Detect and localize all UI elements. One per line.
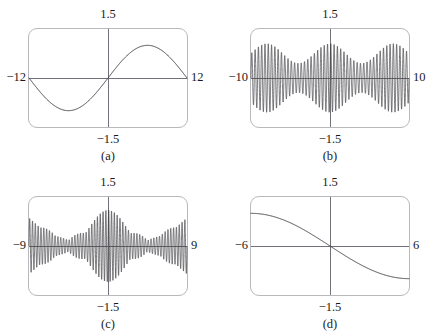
panel-b-viewport <box>250 28 410 128</box>
panel-b-ymax-label: 1.5 <box>322 8 338 21</box>
panel-a-viewport <box>28 28 188 128</box>
panel-d-xmin-label: −6 <box>235 239 248 252</box>
panel-b-xmin-label: −10 <box>228 71 248 84</box>
figure-four-graph-panels: 1.5 −12 12 −1.5 (a) 1.5 −10 10 −1.5 <box>0 0 444 336</box>
panel-d-caption: (d) <box>323 318 338 331</box>
panel-d-viewport <box>250 196 410 296</box>
panel-a-xmax-label: 12 <box>191 71 204 84</box>
graph-panel-a: 1.5 −12 12 −1.5 (a) <box>0 0 222 168</box>
graph-panel-b: 1.5 −10 10 −1.5 (b) <box>222 0 444 168</box>
panel-a-ymax-label: 1.5 <box>100 8 116 21</box>
panel-d-ymin-label: −1.5 <box>319 301 342 314</box>
panel-c-xmax-label: 9 <box>191 239 197 252</box>
panel-b-plot <box>251 29 409 127</box>
panel-c-plot <box>29 197 187 295</box>
panel-b-xmax-label: 10 <box>413 71 426 84</box>
panel-c-viewport <box>28 196 188 296</box>
panel-c-ymin-label: −1.5 <box>97 301 120 314</box>
panel-a-caption: (a) <box>101 150 115 163</box>
panel-b-caption: (b) <box>323 150 338 163</box>
panel-c-caption: (c) <box>101 318 115 331</box>
panel-a-xmin-label: −12 <box>6 71 26 84</box>
panel-d-plot <box>251 197 409 295</box>
panel-d-xmax-label: 6 <box>413 239 419 252</box>
graph-panel-d: 1.5 −6 6 −1.5 (d) <box>222 168 444 336</box>
graph-panel-c: 1.5 −9 9 −1.5 (c) <box>0 168 222 336</box>
panel-c-ymax-label: 1.5 <box>100 176 116 189</box>
panel-a-plot <box>29 29 187 127</box>
panel-d-ymax-label: 1.5 <box>322 176 338 189</box>
panel-b-ymin-label: −1.5 <box>319 133 342 146</box>
panel-c-xmin-label: −9 <box>13 239 26 252</box>
panel-a-ymin-label: −1.5 <box>97 133 120 146</box>
